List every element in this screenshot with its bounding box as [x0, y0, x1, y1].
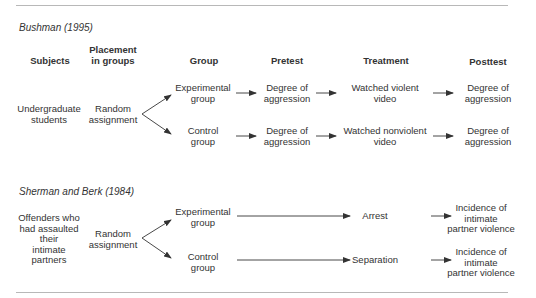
flow-arrows — [0, 0, 536, 298]
fork-arrow-experimental — [142, 220, 171, 238]
fork-arrow-control — [142, 238, 171, 258]
fork-arrow-experimental — [142, 95, 171, 114]
fork-arrow-control — [142, 114, 171, 134]
